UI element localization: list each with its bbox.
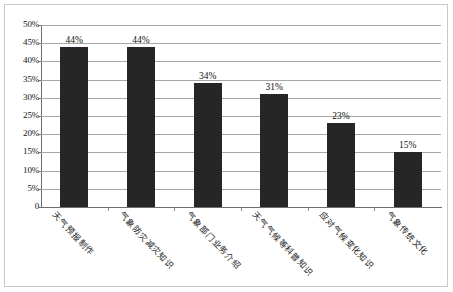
bar-group: 15% bbox=[394, 25, 422, 207]
plot-area: 44%44%34%31%23%15% bbox=[41, 25, 441, 207]
bar-group: 44% bbox=[60, 25, 88, 207]
gridline bbox=[41, 134, 441, 135]
x-axis-category-label: 应对气候变化知识 bbox=[318, 210, 376, 271]
y-axis-tick-label: 40% bbox=[7, 56, 39, 65]
x-axis-tick-mark bbox=[108, 208, 109, 211]
bar-value-label: 31% bbox=[266, 82, 283, 92]
gridline bbox=[41, 98, 441, 99]
x-axis-tick-mark bbox=[241, 208, 242, 211]
x-axis-category-label: 气象部门业务介绍 bbox=[184, 210, 242, 271]
bar-value-label: 34% bbox=[199, 71, 216, 81]
bar[interactable] bbox=[394, 152, 422, 207]
gridline bbox=[41, 171, 441, 172]
bar[interactable] bbox=[127, 47, 155, 207]
bar-group: 44% bbox=[127, 25, 155, 207]
x-axis-category-label: 气象传统文化 bbox=[384, 210, 429, 258]
x-axis-category-label: 天气气候等科普知识 bbox=[251, 210, 315, 278]
y-axis-tick-label: 50% bbox=[7, 20, 39, 29]
y-axis-tick-label: 15% bbox=[7, 147, 39, 156]
y-axis-tick-label: 5% bbox=[7, 184, 39, 193]
bar-value-label: 23% bbox=[332, 111, 349, 121]
chart-frame: 05%10%15%20%25%30%35%40%45%50% 44%44%34%… bbox=[4, 4, 448, 287]
bar-group: 23% bbox=[327, 25, 355, 207]
y-axis: 05%10%15%20%25%30%35%40%45%50% bbox=[5, 5, 39, 292]
x-axis-category-label: 气象防灾减灾知识 bbox=[118, 210, 176, 271]
y-axis-tick-label: 0 bbox=[7, 202, 39, 211]
x-axis-category-label: 天气预报制作 bbox=[51, 210, 96, 258]
bar[interactable] bbox=[60, 47, 88, 207]
gridline bbox=[41, 116, 441, 117]
y-axis-tick-label: 20% bbox=[7, 129, 39, 138]
bar-group: 31% bbox=[260, 25, 288, 207]
bar-value-label: 44% bbox=[66, 35, 83, 45]
x-axis-tick-mark bbox=[174, 208, 175, 211]
gridline bbox=[41, 152, 441, 153]
y-axis-tick-label: 25% bbox=[7, 111, 39, 120]
bar[interactable] bbox=[194, 83, 222, 207]
gridline bbox=[41, 189, 441, 190]
bar[interactable] bbox=[327, 123, 355, 207]
gridline bbox=[41, 25, 441, 26]
bar-value-label: 15% bbox=[399, 140, 416, 150]
x-axis-tick-mark bbox=[308, 208, 309, 211]
x-axis: 天气预报制作气象防灾减灾知识气象部门业务介绍天气气候等科普知识应对气候变化知识气… bbox=[41, 210, 441, 292]
y-axis-tick-label: 35% bbox=[7, 75, 39, 84]
gridline bbox=[41, 43, 441, 44]
y-axis-tick-label: 45% bbox=[7, 38, 39, 47]
gridline bbox=[41, 61, 441, 62]
gridline bbox=[41, 80, 441, 81]
y-axis-tick-label: 30% bbox=[7, 93, 39, 102]
bar[interactable] bbox=[260, 94, 288, 207]
y-axis-tick-label: 10% bbox=[7, 166, 39, 175]
bar-group: 34% bbox=[194, 25, 222, 207]
bar-value-label: 44% bbox=[132, 35, 149, 45]
x-axis-tick-mark bbox=[374, 208, 375, 211]
